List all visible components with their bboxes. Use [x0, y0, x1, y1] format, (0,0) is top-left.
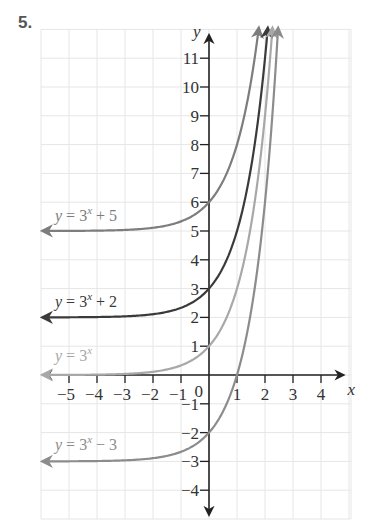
y-tick-label: 11 [183, 49, 199, 68]
equation-label: y = 3x + 5 [53, 204, 117, 225]
y-tick-label: 1 [191, 337, 200, 356]
equation-label: y = 3x + 2 [53, 290, 117, 311]
y-tick-label: 2 [191, 308, 200, 327]
grid-lines [41, 29, 351, 519]
origin-label: 0 [195, 382, 204, 401]
y-tick-label: 9 [191, 107, 200, 126]
curve-y-3-x-2 [42, 28, 267, 317]
x-tick-label: −2 [141, 385, 159, 404]
curves [42, 28, 278, 461]
x-tick-label: 2 [261, 385, 270, 404]
equation-label: y = 3x − 3 [53, 433, 117, 454]
y-tick-label: 7 [191, 164, 200, 183]
x-tick-label: 4 [317, 385, 326, 404]
x-tick-label: −3 [113, 385, 131, 404]
x-tick-label: −4 [85, 385, 104, 404]
y-tick-label: 8 [191, 136, 200, 155]
curve-y-3-x-3 [42, 28, 278, 461]
tick-labels: −5−4−3−2−11234−4−3−2−112345678910110xy [57, 22, 356, 501]
x-tick-label: −5 [57, 385, 75, 404]
y-tick-label: 4 [191, 251, 200, 270]
exponential-graph: −5−4−3−2−11234−4−3−2−112345678910110xy y… [0, 0, 374, 531]
x-axis-label: x [347, 380, 356, 399]
y-tick-label: 10 [182, 78, 199, 97]
equation-label: y = 3x [53, 344, 92, 365]
curve-y-3-x [42, 28, 272, 375]
y-tick-label: 6 [191, 193, 200, 212]
equation-labels: y = 3x + 5y = 3x + 2y = 3xy = 3x − 3 [53, 204, 117, 454]
y-axis-label: y [191, 22, 201, 41]
y-tick-label: −4 [181, 481, 200, 500]
x-tick-label: 3 [289, 385, 298, 404]
y-tick-label: 5 [191, 222, 200, 241]
y-tick-label: −3 [181, 452, 199, 471]
y-tick-label: −2 [181, 424, 199, 443]
y-tick-label: 3 [191, 280, 200, 299]
